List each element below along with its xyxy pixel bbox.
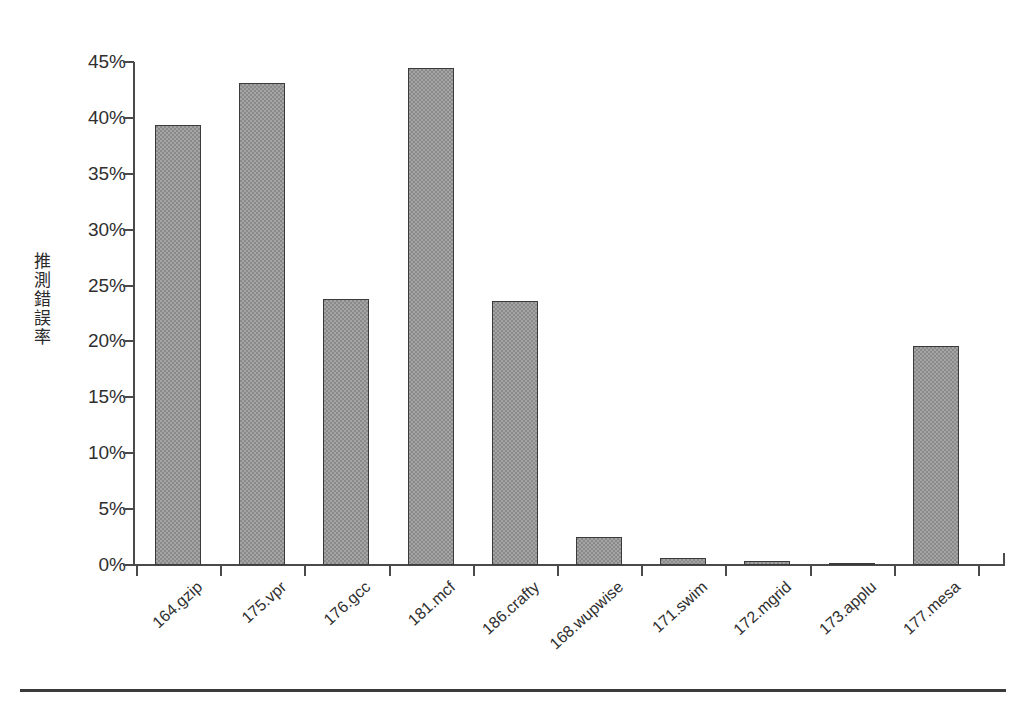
x-tick-label: 181.mcf (404, 578, 458, 629)
x-tick-label: 186.crafty (479, 578, 543, 638)
x-axis-tick-labels: 164.gzip175.vpr176.gcc181.mcf186.crafty1… (0, 0, 1024, 714)
x-tick-label: 168.wupwise (546, 578, 627, 653)
x-tick-label: 172.mgrid (731, 578, 796, 639)
x-tick-label: 173.applu (815, 578, 879, 638)
x-tick-label: 177.mesa (900, 578, 964, 638)
x-tick-label: 171.swim (649, 578, 711, 637)
x-tick-label: 176.gcc (321, 578, 375, 629)
x-tick-label: 175.vpr (239, 578, 291, 627)
chart-page: 推 測 錯 誤 率 0%5%10%15%20%25%30%35%40%45% 1… (0, 0, 1024, 714)
x-tick-label: 164.gzip (149, 578, 206, 632)
footer-rule (20, 689, 1006, 692)
